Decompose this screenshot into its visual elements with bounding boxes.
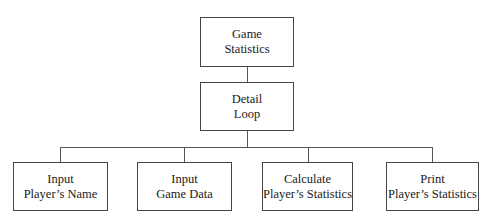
node-label-line-2: Game Data [156,187,213,202]
node-detail-loop: Detail Loop [200,82,294,131]
node-label-line-1: Detail [232,92,263,107]
node-calculate-players-statistics: Calculate Player’s Statistics [262,162,353,211]
connector-middle-down [247,130,248,147]
connector-to-child-1 [184,147,185,162]
node-label-line-2: Statistics [224,42,269,57]
node-label-line-2: Player’s Name [24,187,98,202]
connector-to-child-2 [308,147,309,162]
node-label-line-1: Input [171,172,197,187]
node-input-game-data: Input Game Data [137,162,232,211]
node-label-line-1: Calculate [284,172,331,187]
node-game-statistics: Game Statistics [200,17,294,67]
connector-to-child-3 [432,147,433,162]
node-label-line-2: Loop [234,107,260,122]
node-label-line-1: Input [47,172,73,187]
connector-root-to-middle [247,66,248,82]
node-label-line-1: Game [232,27,262,42]
connector-horizontal-bus [60,147,433,148]
node-label-line-2: Player’s Statistics [388,187,477,202]
node-label-line-2: Player’s Statistics [263,187,352,202]
node-input-players-name: Input Player’s Name [13,162,108,211]
connector-to-child-0 [60,147,61,162]
node-label-line-1: Print [420,172,444,187]
node-print-players-statistics: Print Player’s Statistics [386,162,479,211]
